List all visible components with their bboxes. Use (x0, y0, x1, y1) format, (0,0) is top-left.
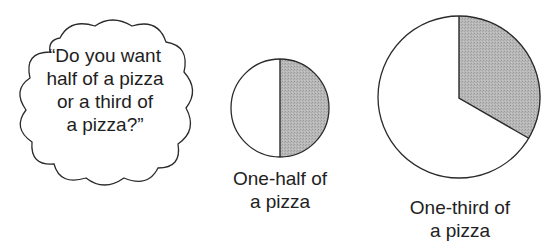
bubble-line: a pizza?” (22, 113, 188, 136)
third-pizza-label: One-third of a pizza (395, 196, 525, 242)
half-pizza-figure (231, 59, 329, 157)
half-pizza-label: One-half of a pizza (215, 167, 345, 213)
label-line: a pizza (215, 190, 345, 213)
label-line: One-half of (215, 167, 345, 190)
third-pizza-figure (378, 16, 541, 178)
bubble-line: half of a pizza (22, 67, 188, 90)
third-pizza-shaded-slice (459, 16, 541, 139)
half-pizza-shaded-slice (280, 59, 329, 157)
bubble-line: “Do you want (22, 44, 188, 67)
thought-bubble-question: “Do you want half of a pizza or a third … (22, 44, 188, 136)
bubble-line: or a third of (22, 90, 188, 113)
label-line: a pizza (395, 219, 525, 242)
label-line: One-third of (395, 196, 525, 219)
